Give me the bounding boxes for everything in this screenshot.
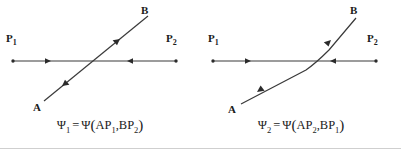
arrowhead-right-left-segment (245, 58, 251, 64)
caption-psi-2: Ψ2=Ψ(AP2,BP1) (201, 118, 401, 137)
label-p2: P2 (367, 33, 378, 48)
label-p2: P2 (166, 33, 177, 48)
p1-endpoint-dot (11, 59, 14, 62)
p2-endpoint-dot (374, 59, 377, 62)
arrowhead-left-right-segment (127, 58, 133, 64)
p2-endpoint-dot (174, 59, 177, 62)
psi-1-lines (0, 0, 200, 122)
bottom-rule (0, 148, 401, 149)
label-a: A (33, 102, 41, 113)
arrowhead-down-diagonal (257, 85, 265, 92)
label-p1: P1 (6, 33, 17, 48)
p1-endpoint-dot (211, 59, 214, 62)
label-b: B (350, 5, 357, 16)
psi-2-panel: P1 P2 A B Ψ2=Ψ(AP2,BP1) (201, 0, 401, 149)
label-b: B (141, 5, 148, 16)
label-p1: P1 (208, 33, 219, 48)
arrowhead-left-right-segment (330, 58, 336, 64)
arrowhead-up-diagonal (324, 40, 331, 47)
arrowhead-right-left-segment (45, 58, 51, 64)
psi-1-panel: P1 P2 A B Ψ1=Ψ(AP1,BP2) (0, 0, 200, 149)
caption-psi-1: Ψ1=Ψ(AP1,BP2) (0, 118, 200, 137)
scattering-diagram-figure: P1 P2 A B Ψ1=Ψ(AP1,BP2) P1 P2 A (0, 0, 401, 149)
label-a: A (228, 104, 236, 115)
